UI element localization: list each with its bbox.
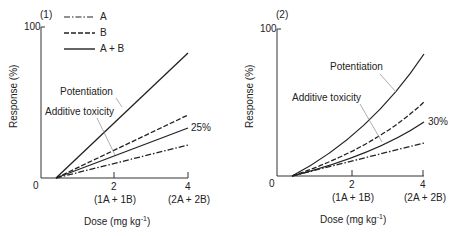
legend: A B A + B xyxy=(64,11,125,54)
panel-1-line-ab-additive xyxy=(56,128,188,178)
panel-1-label: (1) xyxy=(40,9,52,20)
legend-b-label: B xyxy=(100,27,107,38)
figure: (1) 100 0 2 4 (1A + 1B) (2A + 2B) Respon… xyxy=(0,0,454,236)
panel-2-line-ab-potentiation xyxy=(292,54,424,176)
panel-2-x4: 4 xyxy=(420,179,426,190)
panel-1-potentiation-label: Potentiation xyxy=(60,86,113,97)
legend-ab-label: A + B xyxy=(100,43,125,54)
panel-1-x2-sub: (1A + 1B) xyxy=(94,194,136,205)
panel-1-potentiation-pointer xyxy=(116,98,122,107)
panel-2-potentiation-label: Potentiation xyxy=(330,61,383,72)
panel-2-x0: 0 xyxy=(269,178,275,189)
panel-2-label: (2) xyxy=(276,9,288,20)
panel-1-line-b xyxy=(56,115,188,178)
panel-2-x2: 2 xyxy=(349,179,355,190)
panel-1-y100: 100 xyxy=(24,21,41,32)
legend-a-label: A xyxy=(100,11,107,22)
panel-1-x4-sub: (2A + 2B) xyxy=(168,194,210,205)
panel-2-pct: 30% xyxy=(428,116,448,127)
panel-2-x4-sub: (2A + 2B) xyxy=(404,192,446,203)
panel-2-additive-label: Additive toxicity xyxy=(292,92,361,103)
panel-2-x2-sub: (1A + 1B) xyxy=(332,192,374,203)
panel-1-ylabel: Response (%) xyxy=(8,65,19,128)
panel-2: (2) 100 0 2 4 (1A + 1B) (2A + 2B) Respon… xyxy=(244,9,448,225)
panel-2-ylabel: Response (%) xyxy=(244,65,255,128)
panel-1-xlabel: Dose (mg kg-1) xyxy=(84,215,150,227)
panel-1-x0: 0 xyxy=(33,180,39,191)
panel-1-additive-label: Additive toxicity xyxy=(45,106,114,117)
panel-1: (1) 100 0 2 4 (1A + 1B) (2A + 2B) Respon… xyxy=(8,9,211,227)
panel-2-potentiation-pointer xyxy=(380,74,396,92)
panel-2-xlabel: Dose (mg kg-1) xyxy=(320,213,386,225)
panel-1-line-a xyxy=(56,145,188,178)
panel-1-pct: 25% xyxy=(191,122,211,133)
panel-1-x4: 4 xyxy=(185,181,191,192)
panel-1-x2: 2 xyxy=(111,181,117,192)
panel-2-y100: 100 xyxy=(260,23,277,34)
